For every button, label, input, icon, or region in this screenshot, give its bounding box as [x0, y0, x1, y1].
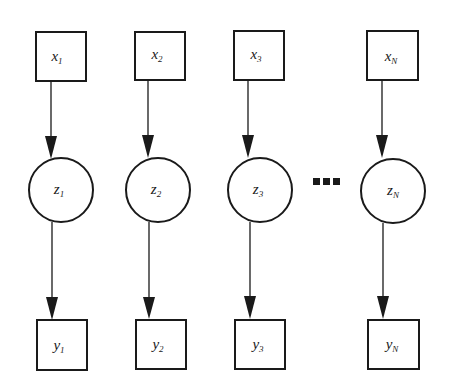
ellipsis-icon: [313, 178, 340, 185]
arrowhead-icon: [142, 135, 154, 158]
arrowhead-icon: [377, 296, 389, 319]
arrowhead-icon: [45, 136, 57, 159]
arrowhead-icon: [376, 135, 388, 158]
graphical-model-diagram: x1 z1 y1 x2 z2 y2 x3 z3 y3: [0, 0, 449, 386]
chain-3: x3 z3 y3: [228, 31, 292, 369]
chain-2: x2 z2 y2: [126, 32, 190, 369]
arrowhead-icon: [143, 297, 155, 319]
chain-1: x1 z1 y1: [29, 32, 93, 370]
arrowhead-icon: [242, 135, 254, 158]
arrowhead-icon: [244, 296, 256, 319]
chain-n: xN zN yN: [361, 31, 425, 369]
arrowhead-icon: [46, 297, 58, 320]
